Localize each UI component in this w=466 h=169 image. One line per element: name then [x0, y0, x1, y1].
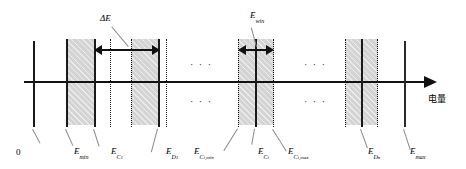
arrow-right-head-icon — [152, 45, 160, 55]
tick-e-dn — [361, 39, 363, 127]
leader-delta-e — [111, 26, 128, 47]
label-e-ci: ECi — [258, 147, 269, 158]
dotted-boundary-6 — [345, 39, 346, 127]
label-e-d1: ED1 — [166, 147, 178, 158]
leader-e-c1 — [93, 129, 100, 146]
tick-e-min — [66, 39, 68, 127]
label-e-max: Emax — [410, 147, 426, 158]
label-e-ci-max: ECi,max — [288, 147, 309, 158]
label-e-c1: EC1 — [111, 147, 123, 158]
figure-canvas: ΔE Ewin · · · · · · · · · · · · 0 Emin E… — [0, 0, 466, 169]
leader-e-d1 — [151, 129, 158, 152]
charge-axis — [24, 81, 426, 83]
leader-e-dn — [360, 129, 368, 148]
dotted-boundary-3 — [166, 39, 167, 127]
arrow-shaft — [99, 49, 155, 51]
leader-e-ci-min — [223, 128, 238, 151]
leader-e-min — [65, 129, 73, 146]
dotted-boundary-7 — [377, 39, 378, 127]
ellipsis-left-above: · · · — [190, 60, 213, 70]
ellipsis-left-below: · · · — [190, 97, 213, 107]
label-e-min: Emin — [74, 147, 89, 158]
axis-name-label: 电量 — [428, 92, 446, 105]
label-delta-e: ΔE — [100, 14, 111, 23]
leader-e-ci — [251, 129, 255, 145]
ellipsis-right-above: · · · — [304, 60, 327, 70]
label-e-win-top: Ewin — [250, 11, 264, 22]
arrow-right-head-icon — [266, 45, 274, 55]
ellipsis-right-below: · · · — [304, 97, 327, 107]
leader-e-ci-max — [272, 129, 287, 152]
label-origin: 0 — [16, 148, 21, 157]
tick-origin — [33, 41, 35, 127]
label-e-ci-min: ECi,min — [194, 147, 214, 158]
leader-origin — [32, 129, 40, 144]
axis-arrowhead-icon — [424, 76, 437, 88]
tick-e-max — [404, 41, 406, 127]
label-e-dn: EDn — [368, 147, 380, 158]
